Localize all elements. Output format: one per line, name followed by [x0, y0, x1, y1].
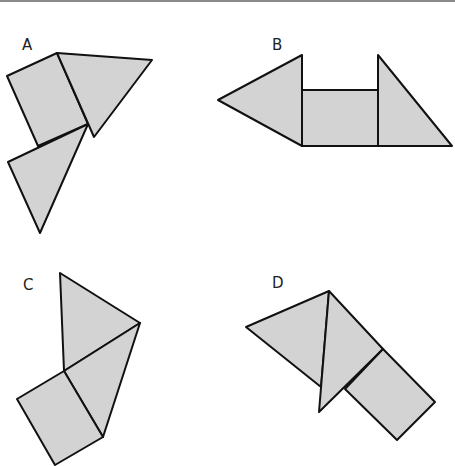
- option-a-label: A: [22, 36, 33, 54]
- option-b-triangle-right: [378, 55, 452, 146]
- option-a[interactable]: A: [7, 36, 152, 233]
- option-b-triangle-left: [218, 55, 302, 146]
- option-b-label: B: [272, 36, 282, 54]
- option-c[interactable]: C: [17, 273, 140, 465]
- option-b-rectangle: [302, 90, 378, 146]
- diagram-canvas: A B C D: [0, 0, 455, 466]
- option-d-triangle-left: [246, 291, 329, 387]
- option-b[interactable]: B: [218, 36, 452, 146]
- option-d-label: D: [272, 274, 284, 292]
- option-d[interactable]: D: [246, 274, 435, 440]
- option-c-label: C: [23, 276, 33, 294]
